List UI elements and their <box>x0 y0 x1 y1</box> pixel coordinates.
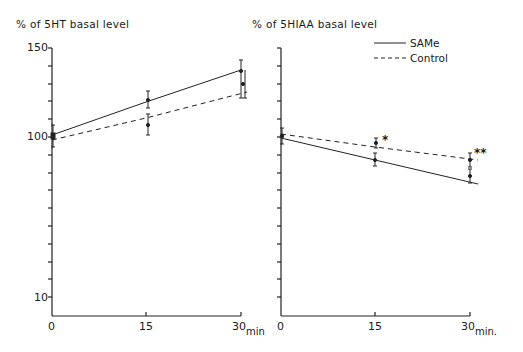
left-error-bars <box>51 60 247 147</box>
right-same-line <box>281 138 478 184</box>
right-control-line <box>281 134 478 160</box>
chart-canvas <box>0 0 523 352</box>
left-axes <box>48 48 241 316</box>
right-axes <box>277 48 470 316</box>
